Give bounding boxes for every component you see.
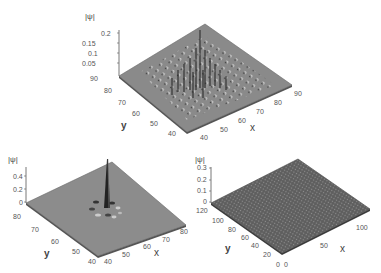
top-z-axis-label: |ψ| — [85, 13, 95, 21]
top-z-tick: 0.05 — [82, 60, 96, 67]
bottom-left-y-axis-label: y — [44, 249, 50, 259]
top-surface-plot: |ψ| 0.2 0.15 0.1 0.05 90 80 70 60 50 40 … — [0, 0, 381, 145]
top-x-tick: 50 — [220, 126, 228, 133]
top-y-tick: 40 — [168, 130, 176, 137]
bottom-right-z-tick: 0.3 — [197, 164, 207, 171]
bottom-left-surface-plot: |ψ| 0.4 0.2 0 80 70 60 50 40 y 40 50 60 … — [0, 145, 190, 273]
top-z-tick: 0.1 — [88, 50, 98, 57]
bottom-left-x-axis-label: x — [154, 248, 159, 258]
bottom-left-y-tick: 60 — [51, 238, 59, 245]
top-x-tick: 80 — [274, 99, 282, 106]
bottom-left-y-tick: 70 — [31, 226, 39, 233]
bottom-right-y-tick: 100 — [212, 217, 224, 224]
bottom-left-z-tick: 0.4 — [13, 173, 23, 180]
bottom-left-x-tick: 80 — [180, 228, 188, 235]
top-y-tick: 70 — [118, 99, 126, 106]
top-y-tick: 60 — [132, 110, 140, 117]
bottom-left-z-tick: 0 — [19, 199, 23, 206]
bottom-right-surface-plot: |ψ| 0.3 0.2 0.1 0 120 100 80 60 40 20 0 … — [190, 145, 381, 273]
bottom-left-x-tick: 70 — [162, 236, 170, 243]
bottom-left-z-axis-label: |ψ| — [8, 156, 18, 164]
top-x-axis-label: x — [250, 123, 255, 133]
bottom-right-y-tick: 0 — [276, 261, 280, 268]
bottom-right-y-tick: 40 — [251, 242, 259, 249]
bottom-left-y-tick: 80 — [13, 213, 21, 220]
bottom-right-z-tick: 0.2 — [197, 176, 207, 183]
top-y-tick: 90 — [90, 75, 98, 82]
bottom-left-x-tick: 50 — [122, 251, 130, 258]
top-x-tick: 70 — [256, 108, 264, 115]
top-x-tick: 40 — [200, 134, 208, 141]
top-y-tick: 50 — [150, 120, 158, 127]
bottom-right-y-tick: 120 — [196, 207, 208, 214]
bottom-right-z-tick: 0 — [203, 198, 207, 205]
bottom-right-y-axis-label: y — [225, 244, 231, 254]
bottom-right-x-axis-label: x — [340, 244, 345, 254]
top-z-tick: 0.2 — [101, 30, 111, 37]
bottom-left-x-tick: 40 — [104, 258, 112, 265]
bottom-left-z-tick: 0.2 — [13, 186, 23, 193]
bottom-right-x-tick: 50 — [320, 242, 328, 249]
bottom-left-y-tick: 50 — [72, 248, 80, 255]
bottom-right-surface-graphic — [190, 145, 381, 273]
bottom-right-x-tick: 100 — [356, 224, 368, 231]
top-surface-graphic — [0, 0, 381, 145]
top-x-tick: 90 — [294, 90, 302, 97]
top-z-tick: 0.15 — [82, 40, 96, 47]
top-x-tick: 60 — [238, 117, 246, 124]
bottom-left-surface-graphic — [0, 145, 190, 273]
bottom-right-z-axis-label: |ψ| — [195, 156, 205, 164]
bottom-left-x-tick: 60 — [143, 243, 151, 250]
bottom-right-z-tick: 0.1 — [197, 187, 207, 194]
bottom-right-y-tick: 60 — [241, 234, 249, 241]
bottom-left-y-tick: 40 — [88, 258, 96, 265]
top-y-axis-label: y — [121, 121, 127, 131]
bottom-right-x-tick: 0 — [284, 261, 288, 268]
top-y-tick: 80 — [104, 87, 112, 94]
bottom-right-y-tick: 80 — [228, 226, 236, 233]
bottom-right-y-tick: 20 — [263, 251, 271, 258]
